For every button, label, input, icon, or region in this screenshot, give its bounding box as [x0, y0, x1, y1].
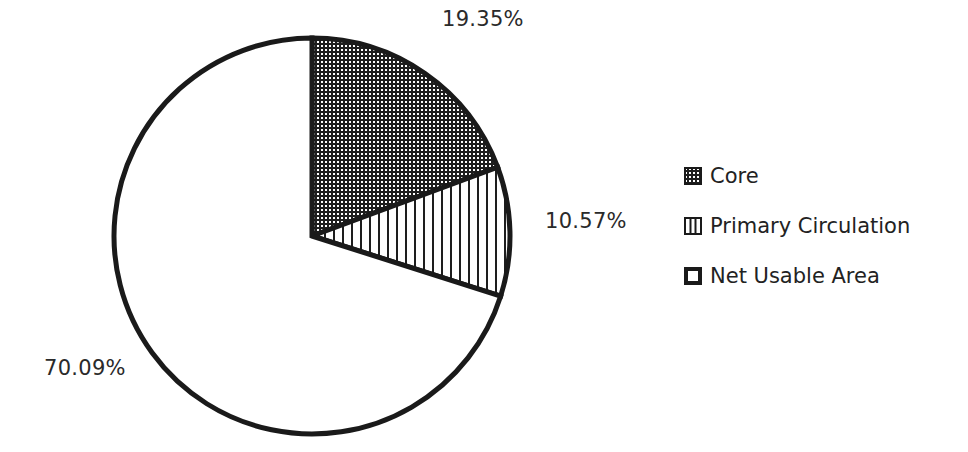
legend-item-net-usable: Net Usable Area [684, 263, 910, 289]
legend-label-circulation: Primary Circulation [710, 214, 910, 238]
legend-label-net-usable: Net Usable Area [710, 264, 880, 288]
empty-swatch-icon [684, 267, 702, 285]
core-percent-label: 19.35% [442, 7, 524, 31]
legend-item-core: Core [684, 163, 910, 189]
legend-item-circulation: Primary Circulation [684, 213, 910, 239]
dotted-swatch-icon [684, 167, 702, 185]
legend: Core Primary Circulation Net Usable Area [684, 163, 910, 313]
legend-label-core: Core [710, 164, 759, 188]
net-usable-percent-label: 70.09% [44, 356, 126, 380]
circulation-percent-label: 10.57% [545, 209, 627, 233]
striped-swatch-icon [684, 217, 702, 235]
